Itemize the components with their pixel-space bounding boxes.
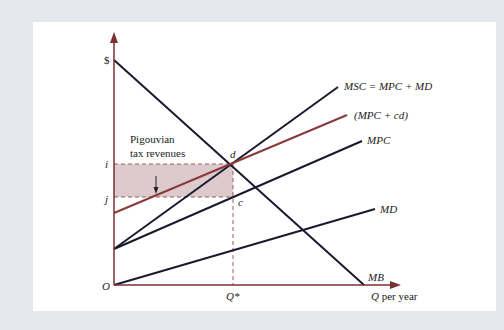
y-axis-label: $ <box>104 54 110 66</box>
msc-label: MSC = MPC + MD <box>343 80 432 92</box>
i-label: i <box>105 158 108 170</box>
origin-label: O <box>102 280 110 292</box>
mb-label: MB <box>367 271 384 283</box>
annotation-line2: tax revenues <box>130 147 185 159</box>
x-axis-label: Q per year <box>371 290 418 302</box>
tax-revenue-area <box>114 164 233 197</box>
j-label: j <box>103 193 108 205</box>
md-label: MD <box>379 203 397 215</box>
mpc-label: MPC <box>366 134 391 146</box>
annotation-line1: Pigouvian <box>130 133 175 145</box>
mpc-plus-cd-label: (MPC + cd) <box>354 109 408 122</box>
point-d-label: d <box>230 148 236 160</box>
externality-tax-diagram: $ O i j Q* Q per year d c Pigouvian tax … <box>0 0 504 330</box>
x-axis-arrow-icon <box>390 281 401 289</box>
point-c-label: c <box>238 196 243 208</box>
y-axis-arrow-icon <box>110 32 118 43</box>
q-star-label: Q* <box>226 290 240 302</box>
